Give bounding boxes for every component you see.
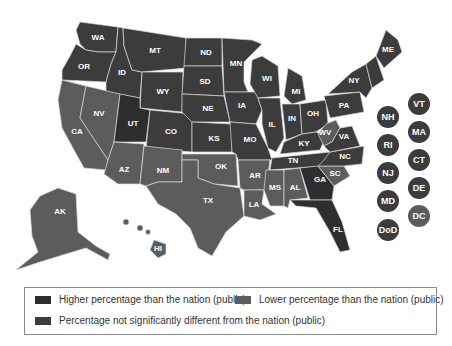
state-label-WV: WV [319, 128, 333, 137]
state-label-MT: MT [149, 46, 161, 55]
state-label-SC: SC [329, 169, 340, 178]
circle-label-CT: CT [413, 155, 425, 165]
state-label-UT: UT [128, 119, 139, 128]
circle-label-DE: DE [413, 183, 426, 193]
state-label-OR: OR [78, 62, 90, 71]
state-label-AR: AR [249, 171, 261, 180]
circle-label-MD: MD [381, 196, 395, 206]
circle-label-NH: NH [382, 112, 395, 122]
circle-state-VT[interactable]: VT [408, 93, 430, 115]
state-label-AK: AK [54, 207, 66, 216]
state-label-SD: SD [199, 77, 210, 86]
circle-label-RI: RI [384, 140, 393, 150]
state-label-FL: FL [333, 225, 343, 234]
state-AK[interactable] [16, 188, 110, 270]
state-label-IN: IN [288, 114, 296, 123]
legend: Higher percentage than the nation (publi… [24, 287, 437, 335]
circle-state-NH[interactable]: NH [377, 106, 399, 128]
legend-label-higher: Higher percentage than the nation (publi… [59, 294, 246, 305]
circle-label-VT: VT [413, 99, 425, 109]
circle-state-MA[interactable]: MA [408, 121, 430, 143]
state-label-NC: NC [339, 152, 351, 161]
state-label-NY: NY [348, 76, 360, 85]
legend-label-not-significant: Percentage not significantly different f… [59, 315, 325, 326]
legend-item-higher: Higher percentage than the nation (publi… [35, 294, 246, 305]
state-label-HI: HI [154, 244, 162, 253]
state-label-CO: CO [165, 127, 177, 136]
state-label-PA: PA [339, 101, 350, 110]
state-label-WA: WA [92, 33, 105, 42]
circle-label-MA: MA [412, 127, 426, 137]
state-HI-island [123, 219, 129, 225]
circle-state-NJ[interactable]: NJ [377, 162, 399, 184]
state-label-WY: WY [157, 87, 171, 96]
state-label-VA: VA [339, 132, 350, 141]
state-label-TX: TX [203, 196, 214, 205]
state-HI-island [146, 230, 151, 235]
legend-item-not-significant: Percentage not significantly different f… [35, 315, 325, 326]
state-label-ID: ID [118, 68, 126, 77]
circle-label-NJ: NJ [382, 168, 394, 178]
state-label-MS: MS [269, 183, 282, 192]
state-label-GA: GA [314, 175, 326, 184]
legend-swatch-higher [35, 296, 51, 304]
circle-label-DC: DC [413, 211, 426, 221]
legend-label-lower: Lower percentage than the nation (public… [259, 294, 444, 305]
circle-label-DoD: DoD [379, 225, 398, 235]
state-label-LA: LA [249, 200, 260, 209]
state-label-AL: AL [290, 183, 301, 192]
us-choropleth-map: WAORIDMTNDMNWIMIMESDWYNEIANYPAILINOHUTCO… [0, 0, 452, 282]
state-label-ME: ME [382, 45, 395, 54]
state-label-KY: KY [298, 139, 310, 148]
state-MI[interactable] [284, 68, 306, 104]
state-label-NV: NV [93, 109, 105, 118]
state-label-WI: WI [262, 74, 272, 83]
circle-state-RI[interactable]: RI [377, 134, 399, 156]
state-label-ND: ND [200, 48, 212, 57]
legend-swatch-not-significant [35, 317, 51, 325]
state-label-MN: MN [230, 59, 243, 68]
circle-state-DC[interactable]: DC [408, 205, 430, 227]
state-label-CA: CA [71, 127, 83, 136]
state-label-IL: IL [268, 120, 275, 129]
circle-state-DE[interactable]: DE [408, 177, 430, 199]
circle-state-MD[interactable]: MD [377, 190, 399, 212]
legend-item-lower: Lower percentage than the nation (public… [235, 294, 444, 305]
state-label-MO: MO [244, 135, 257, 144]
state-label-NE: NE [202, 104, 214, 113]
circle-state-DoD[interactable]: DoD [377, 219, 399, 241]
state-HI-island [137, 225, 143, 231]
state-label-NM: NM [157, 166, 170, 175]
legend-swatch-lower [235, 296, 251, 304]
state-label-KS: KS [208, 134, 220, 143]
state-label-MI: MI [292, 87, 301, 96]
state-label-TN: TN [288, 156, 299, 165]
state-label-AZ: AZ [119, 165, 130, 174]
circle-state-CT[interactable]: CT [408, 149, 430, 171]
state-label-IA: IA [238, 101, 246, 110]
state-label-OH: OH [307, 109, 319, 118]
state-label-OK: OK [215, 162, 227, 171]
